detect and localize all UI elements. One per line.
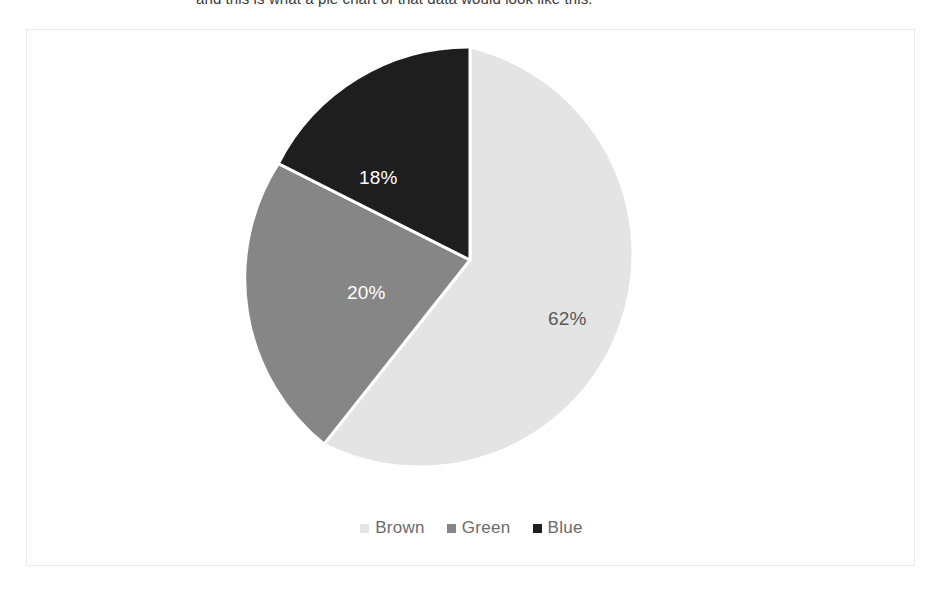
pie-data-label-brown: 62% xyxy=(548,308,587,330)
legend-label-brown: Brown xyxy=(375,518,425,538)
legend-item-green[interactable]: Green xyxy=(447,518,511,538)
legend-swatch-green-icon xyxy=(447,524,456,533)
legend-label-green: Green xyxy=(462,518,511,538)
legend-swatch-brown-icon xyxy=(360,524,369,533)
pie-chart-graphic xyxy=(240,30,700,490)
legend-label-blue: Blue xyxy=(548,518,583,538)
clipped-text-line: and this is what a pie chart of that dat… xyxy=(196,0,593,7)
legend-item-blue[interactable]: Blue xyxy=(533,518,583,538)
pie-data-label-blue: 18% xyxy=(359,167,398,189)
pie-data-label-green: 20% xyxy=(347,282,386,304)
pie-chart-container: 62% 20% 18% Brown Green Blue xyxy=(26,29,915,566)
chart-legend: Brown Green Blue xyxy=(27,518,916,538)
chart-plot-area: 62% 20% 18% Brown Green Blue xyxy=(27,30,914,565)
legend-item-brown[interactable]: Brown xyxy=(360,518,425,538)
legend-swatch-blue-icon xyxy=(533,524,542,533)
clipped-document-text: and this is what a pie chart of that dat… xyxy=(0,0,941,11)
